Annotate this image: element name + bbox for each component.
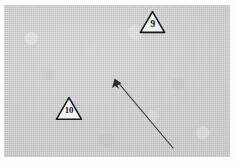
- triangle-marker-10[interactable]: 10: [55, 96, 83, 121]
- photo-plate: [4, 5, 230, 157]
- triangle-marker-9[interactable]: 9: [139, 10, 166, 34]
- film-grain-texture: [4, 5, 230, 157]
- triangle-marker-9-label: 9: [139, 19, 166, 29]
- triangle-marker-10-label: 10: [55, 106, 83, 115]
- scene-container: 9 10: [0, 0, 235, 167]
